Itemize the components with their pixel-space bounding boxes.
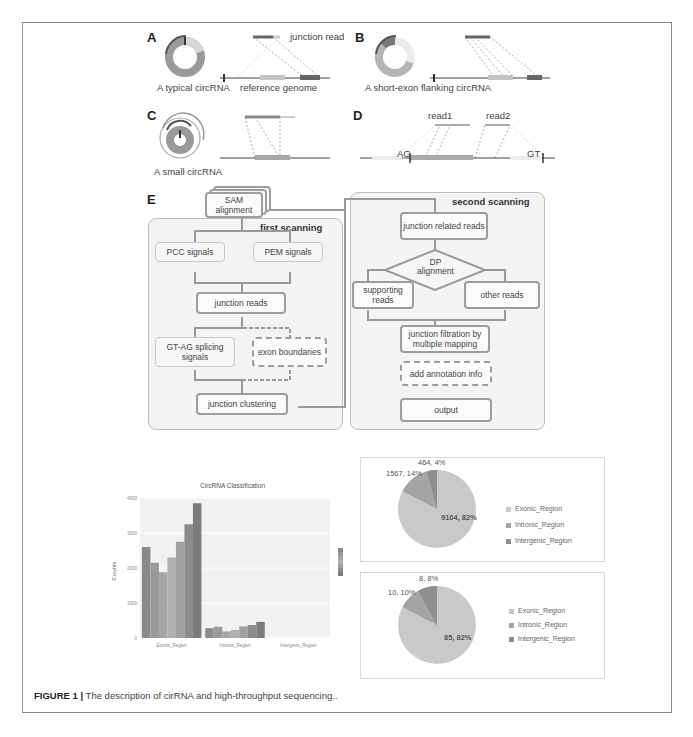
- bar-chart-plot: 01000200030004000Exonic_RegionIntronic_R…: [110, 480, 360, 660]
- panel-d-alignment-diagram: [360, 110, 560, 170]
- svg-text:Intronic_Region: Intronic_Region: [219, 643, 251, 648]
- svg-text:1000: 1000: [127, 601, 138, 606]
- pem-signals-node: PEM signals: [253, 242, 323, 262]
- panel-label-b: B: [355, 30, 364, 45]
- svg-text:0: 0: [134, 636, 137, 641]
- pie1-label-exonic: 9104, 82%: [441, 513, 477, 522]
- pie-chart-1-box: 464, 4% 1567, 14% 9104, 82% Exonic_Regio…: [360, 457, 605, 562]
- panel-b-alignment-diagram: [430, 30, 560, 90]
- panel-label-a: A: [147, 30, 156, 45]
- pcc-signals-node: PCC signals: [155, 242, 225, 262]
- junction-related-reads-node: junction related reads: [400, 212, 488, 240]
- pie1-legend-intronic: Intronic_Region: [506, 521, 564, 528]
- bar-chart: CircRNA Classification Counts 0100020003…: [110, 480, 360, 660]
- pie1-label-intergenic: 464, 4%: [418, 458, 446, 467]
- circrna-ring-c-icon: [153, 110, 218, 165]
- panel-c-alignment-diagram: [220, 110, 340, 170]
- circrna-ring-a-icon: [158, 32, 218, 82]
- gtag-splicing-node: GT-AG splicing signals: [155, 337, 235, 367]
- junction-filtration-node: junction filtration by multiple mapping: [400, 325, 490, 353]
- panel-c-caption: A small circRNA: [154, 166, 222, 177]
- ag-site-label: AG: [397, 148, 411, 159]
- pie2-label-intronic: 10, 10%: [388, 588, 416, 597]
- svg-text:4000: 4000: [127, 496, 138, 501]
- reference-genome-label: reference genome: [240, 82, 317, 93]
- add-annotation-node: add annotation info: [400, 361, 492, 386]
- pie2-legend-intronic: Intronic_Region: [509, 621, 567, 628]
- read2-label: read2: [486, 110, 510, 121]
- pie-chart-2: [397, 585, 477, 665]
- other-reads-node: other reads: [464, 281, 540, 309]
- output-node: output: [400, 398, 492, 422]
- read1-label: read1: [428, 110, 452, 121]
- exon-boundaries-node: exon boundaries: [252, 337, 327, 367]
- figure-caption-text: The description of cirRNA and high-throu…: [86, 690, 338, 701]
- panel-a-caption: A typical circRNA: [157, 82, 230, 93]
- pie2-legend-intergenic: Intergenic_Region: [509, 635, 575, 642]
- dp-alignment-label: DP alignment: [413, 258, 458, 276]
- svg-text:2000: 2000: [127, 566, 138, 571]
- pie1-legend-exonic: Exonic_Region: [506, 505, 562, 512]
- pie2-label-intergenic: 8, 8%: [419, 574, 438, 583]
- svg-text:3000: 3000: [127, 531, 138, 536]
- pie1-label-intronic: 1567, 14%: [386, 469, 422, 478]
- junction-reads-node: junction reads: [196, 292, 286, 314]
- pie2-label-exonic: 85, 82%: [444, 633, 472, 642]
- circrna-ring-b-icon: [368, 32, 428, 82]
- svg-text:Exonic_Region: Exonic_Region: [157, 643, 188, 648]
- pie2-legend-exonic: Exonic_Region: [509, 607, 565, 614]
- junction-clustering-node: junction clustering: [196, 393, 288, 415]
- gt-site-label: GT: [527, 148, 540, 159]
- supporting-reads-node: supporting reads: [352, 281, 414, 309]
- pie-chart-1: [397, 469, 477, 549]
- pie1-legend-intergenic: Intergenic_Region: [506, 537, 572, 544]
- sam-alignment-node: SAM alignment: [205, 192, 263, 218]
- junction-read-label: junction read: [290, 31, 344, 42]
- figure-caption-label: FIGURE 1 |: [34, 690, 83, 701]
- figure-caption: FIGURE 1 | The description of cirRNA and…: [34, 690, 338, 701]
- pie-chart-2-box: 8, 8% 10, 10% 85, 82% Exonic_Region Intr…: [360, 572, 605, 679]
- svg-text:Intergenic_Region: Intergenic_Region: [280, 643, 317, 648]
